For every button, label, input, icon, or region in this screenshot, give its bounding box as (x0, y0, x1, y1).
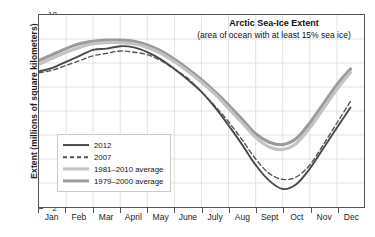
legend-item[interactable]: 1981–2010 average (63, 163, 163, 175)
x-tick-mark (174, 208, 175, 213)
legend-label: 2007 (94, 153, 111, 162)
legend-swatch-icon (63, 152, 89, 162)
x-tick-mark (338, 208, 339, 213)
chart-legend: 201220071981–2010 average1979–2000 avera… (57, 134, 171, 192)
x-tick-mark (283, 208, 284, 213)
x-tick-mark (38, 208, 39, 213)
legend-swatch-icon (63, 176, 89, 186)
legend-label: 1981–2010 average (94, 165, 163, 174)
x-tick-mark (147, 208, 148, 213)
x-tick-mark (229, 208, 230, 213)
x-tick-label: Dec (329, 212, 373, 222)
x-tick-mark (65, 208, 66, 213)
legend-label: 2012 (94, 141, 111, 150)
x-tick-mark (202, 208, 203, 213)
legend-item[interactable]: 1979–2000 average (63, 175, 163, 187)
legend-label: 1979–2000 average (94, 177, 163, 186)
arctic-sea-ice-chart: Extent (millions of square kilometers) 2… (0, 0, 375, 237)
legend-item[interactable]: 2007 (63, 151, 163, 163)
x-tick-mark (256, 208, 257, 213)
x-tick-mark (311, 208, 312, 213)
x-tick-mark (120, 208, 121, 213)
legend-swatch-icon (63, 140, 89, 150)
x-tick-mark (93, 208, 94, 213)
series-line (39, 40, 350, 145)
legend-item[interactable]: 2012 (63, 139, 163, 151)
legend-swatch-icon (63, 164, 89, 174)
